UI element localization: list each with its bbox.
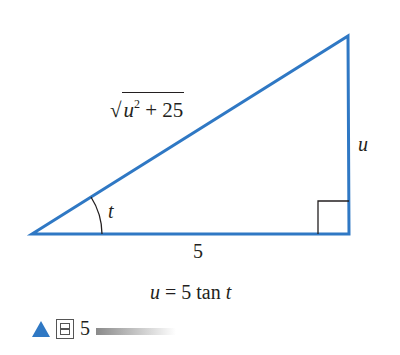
angle-arc bbox=[91, 197, 102, 234]
caption-gradient-bar bbox=[96, 328, 176, 335]
right-angle-mark bbox=[318, 201, 349, 234]
triangle-marker-icon bbox=[32, 321, 50, 337]
hyp-rest: + 25 bbox=[140, 98, 183, 122]
angle-label: t bbox=[108, 200, 114, 223]
equation-rhs: t bbox=[226, 281, 232, 303]
equation-lhs: u bbox=[150, 281, 160, 303]
opposite-side-label: u bbox=[358, 133, 368, 156]
figure-caption: 5 bbox=[32, 317, 176, 340]
adjacent-side-label: 5 bbox=[193, 240, 203, 263]
triangle bbox=[32, 36, 349, 234]
figure-number: 5 bbox=[80, 317, 90, 340]
hyp-var: u bbox=[124, 98, 135, 122]
equation-mid: = 5 tan bbox=[160, 281, 226, 303]
figure-char-icon bbox=[56, 319, 74, 339]
hypotenuse-label: √u2 + 25 bbox=[110, 92, 184, 123]
equation: u = 5 tan t bbox=[150, 281, 231, 304]
radical-sign: √ bbox=[110, 98, 122, 122]
